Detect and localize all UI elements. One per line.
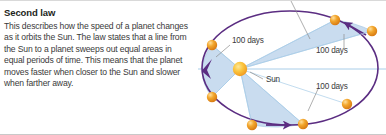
planet-marker [330,15,340,25]
page-title: Second law [4,7,190,18]
orbit-diagram-container: 100 days 100 days 100 days Sun [190,1,386,135]
planet-marker [247,120,257,130]
sun-label: Sun [266,75,281,84]
orbit-diagram-svg: 100 days 100 days 100 days Sun [190,1,386,135]
sun-icon [233,62,247,76]
second-law-figure-panel: Second law This describes how the speed … [0,0,386,135]
sector-label-lower-right: 100 days [316,82,348,91]
planet-marker [342,99,352,109]
planet-marker [367,26,377,36]
body-paragraph: This describes how the speed of a planet… [4,21,190,89]
sector-label-right: 100 days [316,46,348,55]
sector-label-upper-left: 100 days [232,36,264,45]
planet-marker [207,92,217,102]
text-column: Second law This describes how the speed … [4,7,190,89]
planet-marker [207,40,217,50]
planet-marker [298,119,308,129]
